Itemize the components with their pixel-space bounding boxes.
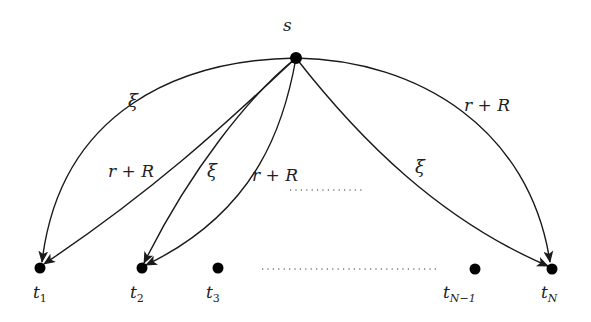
- label-t3: t3: [206, 282, 220, 305]
- edge-s-t1-rR: [44, 58, 296, 264]
- label-t1: t1: [33, 282, 47, 305]
- edge-s-t1-xi: [42, 58, 296, 262]
- edge-label-rR-t2: r + R: [252, 165, 298, 185]
- edge-label-rR-t1: r + R: [108, 161, 154, 181]
- node-tN: [547, 264, 558, 275]
- label-tN: tN: [541, 282, 558, 305]
- label-s: s: [283, 15, 292, 35]
- node-t1: [35, 263, 46, 274]
- graph-diagram: s t1 t2 t3 tN−1 tN ξ r + R ξ r + R ξ r +…: [0, 0, 591, 322]
- edge-label-xi-tN: ξ: [415, 156, 426, 177]
- edge-s-t2-rR: [146, 58, 296, 265]
- node-s: [290, 52, 302, 64]
- label-t2: t2: [130, 282, 144, 305]
- edge-label-rR-tN: r + R: [464, 95, 510, 115]
- node-t2: [137, 263, 148, 274]
- node-t3: [213, 263, 224, 274]
- edge-s-t2-xi: [144, 58, 296, 263]
- edge-label-xi-t1: ξ: [128, 90, 139, 111]
- label-tN-1: tN−1: [443, 282, 476, 305]
- node-tN-1: [470, 264, 481, 275]
- edge-label-xi-t2: ξ: [207, 160, 218, 181]
